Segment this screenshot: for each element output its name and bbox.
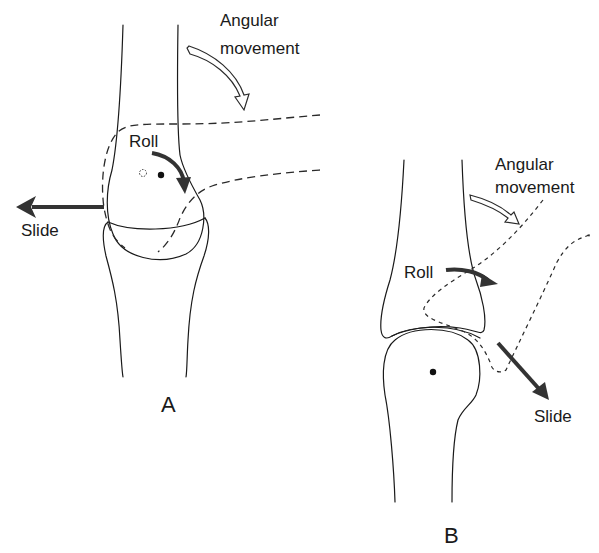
panel-b-roll-arrowhead [480, 274, 498, 287]
panel-b: Roll Slide Angular movement B [381, 155, 590, 548]
arthrokinematics-diagram: Roll Slide Angular movement A [0, 0, 599, 553]
panel-a: Roll Slide Angular movement A [16, 11, 320, 417]
panel-a-slide-label: Slide [21, 221, 59, 240]
panel-b-label: B [444, 523, 459, 548]
panel-b-slide-label: Slide [534, 407, 572, 426]
panel-a-angular-label-line2: movement [220, 39, 300, 58]
panel-a-roll-arrow [152, 153, 184, 182]
panel-b-angular-label-line2: movement [495, 178, 575, 197]
panel-b-roll-label: Roll [404, 263, 433, 282]
panel-a-old-center-marker [140, 170, 147, 177]
panel-a-label: A [161, 392, 176, 417]
panel-b-angular-movement-arrow [470, 195, 519, 224]
panel-b-upper-bone-rotated-outline-b [588, 235, 590, 236]
panel-b-center-dot [430, 369, 436, 375]
panel-a-roll-arrowhead [176, 177, 191, 194]
panel-a-lower-bone-articular-surface [108, 218, 205, 229]
panel-a-roll-label: Roll [129, 132, 158, 151]
panel-b-upper-bone [381, 160, 485, 338]
panel-a-center-dot [158, 172, 164, 178]
panel-b-upper-bone-rotated-outline [424, 200, 590, 372]
panel-a-lower-bone-right [186, 218, 209, 377]
panel-b-slide-arrow [498, 343, 540, 390]
panel-b-lower-bone [383, 330, 479, 503]
panel-a-angular-label-line1: Angular [220, 11, 279, 30]
panel-b-angular-label-line1: Angular [495, 155, 554, 174]
